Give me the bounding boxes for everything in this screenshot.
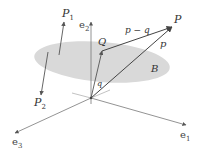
label-p1: P1	[61, 7, 74, 22]
label-vector-q: q	[97, 79, 102, 88]
label-vector-p: p	[160, 38, 167, 49]
label-e3: e3	[12, 136, 22, 150]
label-e1: e1	[180, 129, 190, 143]
axis-e3-neg	[91, 90, 110, 98]
geometric-algebra-diagram: P1 P2 P Q p − q p q B e2 e1 e3	[0, 0, 197, 152]
label-point-p: P	[173, 13, 182, 26]
label-e2: e2	[79, 19, 89, 33]
axis-e1-neg	[72, 93, 91, 98]
axis-e3	[15, 98, 91, 133]
label-plane-b: B	[150, 63, 158, 74]
label-p2: P2	[33, 96, 46, 111]
axis-e1	[91, 98, 186, 125]
label-p-minus-q: p − q	[125, 25, 150, 35]
label-point-q: Q	[98, 36, 106, 47]
origin-point	[90, 97, 92, 99]
